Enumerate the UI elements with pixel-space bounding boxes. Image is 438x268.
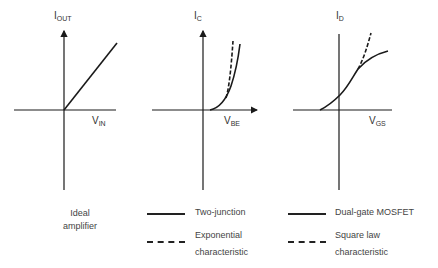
label-sub: OUT: [57, 15, 72, 22]
label-main: V: [92, 115, 99, 126]
caption-line: Ideal: [40, 207, 120, 220]
label-sub: BE: [231, 120, 240, 127]
panel-two-junction: [152, 31, 257, 190]
legend-label: Dual-gate MOSFET: [335, 207, 414, 217]
y-axis-label-iout: IOUT: [54, 10, 72, 22]
legend-label: characteristic: [335, 246, 388, 259]
label-sub: GS: [376, 120, 386, 127]
legend-two-junction: Two-junction: [195, 206, 246, 219]
x-axis-label-vin: VIN: [92, 115, 106, 127]
label-sub: C: [197, 15, 202, 22]
x-axis-label-vgs: VGS: [369, 115, 386, 127]
caption-ideal-amplifier: Ideal amplifier: [40, 207, 120, 233]
legend-swatch-solid: [147, 213, 185, 215]
label-sub: D: [339, 15, 344, 22]
y-axis-label-id: ID: [336, 10, 344, 22]
label-main: V: [369, 115, 376, 126]
dual-gate-mosfet-curve: [320, 51, 388, 110]
caption-line: amplifier: [40, 220, 120, 233]
legend-label: Square law: [335, 229, 388, 242]
label-sub: IN: [99, 120, 106, 127]
legend-square-law: Square law characteristic: [335, 229, 388, 259]
two-junction-curve: [210, 44, 240, 110]
y-axis-label-ic: IC: [194, 10, 202, 22]
legend-swatch-dashed: [147, 241, 185, 243]
legend-label: characteristic: [195, 246, 248, 259]
legend-swatch-dashed: [288, 241, 326, 243]
panel-ideal-amplifier: [14, 31, 117, 190]
legend-dual-gate-mosfet: Dual-gate MOSFET: [335, 206, 414, 219]
legend-swatch-solid: [288, 213, 326, 215]
legend-exponential: Exponential characteristic: [195, 229, 248, 259]
label-main: V: [224, 115, 231, 126]
linear-response-curve: [64, 43, 117, 110]
panel-dual-gate-mosfet: [293, 33, 392, 190]
legend-label: Two-junction: [195, 207, 246, 217]
x-axis-label-vbe: VBE: [224, 115, 240, 127]
legend-label: Exponential: [195, 229, 248, 242]
